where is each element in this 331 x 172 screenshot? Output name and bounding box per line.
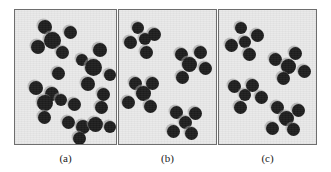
data-point [64, 26, 77, 39]
data-point [239, 36, 251, 48]
caption-panel-b: (b) [118, 152, 217, 164]
figure-container: (a) (b) (c) [0, 0, 331, 172]
data-point [122, 96, 135, 109]
data-point [81, 77, 95, 91]
data-point [298, 65, 311, 78]
data-point [29, 81, 43, 95]
data-point [292, 104, 305, 117]
data-point [85, 59, 102, 76]
data-point [255, 91, 268, 104]
data-point [124, 36, 137, 49]
data-point [93, 43, 107, 57]
data-point [235, 22, 247, 34]
data-point [185, 127, 198, 140]
captions-row: (a) (b) (c) [0, 150, 331, 172]
data-point [251, 29, 264, 42]
panel-a-plot-area [15, 10, 116, 144]
caption-panel-c: (c) [218, 152, 317, 164]
data-point [97, 88, 110, 101]
data-point [38, 111, 51, 124]
data-point [73, 132, 86, 145]
data-point [289, 47, 302, 60]
data-point [139, 33, 151, 45]
panel-b [118, 9, 217, 145]
data-point [95, 101, 108, 114]
data-point [104, 121, 116, 133]
data-point [266, 122, 279, 135]
data-point [225, 39, 238, 52]
panel-c-plot-area [219, 10, 316, 144]
data-point [287, 123, 300, 136]
panels-row [0, 0, 331, 150]
caption-panel-a: (a) [14, 152, 117, 164]
panel-b-plot-area [119, 10, 216, 144]
data-point [44, 32, 61, 49]
data-point [243, 48, 256, 61]
data-point [37, 95, 53, 111]
panel-a [14, 9, 117, 145]
data-point [239, 89, 251, 101]
data-point [31, 40, 45, 54]
data-point [104, 69, 116, 81]
data-point [68, 98, 81, 111]
data-point [62, 116, 75, 129]
panel-c [218, 9, 317, 145]
data-point [140, 46, 153, 59]
data-point [132, 22, 144, 34]
data-point [228, 80, 241, 93]
data-point [269, 53, 282, 66]
data-point [144, 100, 157, 113]
data-point [194, 46, 207, 59]
data-point [182, 57, 197, 72]
data-point [52, 67, 65, 80]
data-point [234, 101, 247, 114]
data-point [56, 46, 69, 59]
data-point [277, 72, 290, 85]
data-point [176, 71, 189, 84]
data-point [199, 62, 212, 75]
data-point [88, 117, 103, 132]
data-point [55, 94, 67, 106]
data-point [136, 86, 151, 101]
data-point [167, 125, 180, 138]
